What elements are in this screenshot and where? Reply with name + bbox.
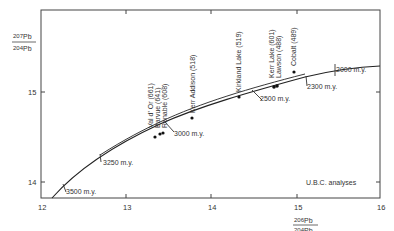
- point-val-dor: [153, 135, 156, 138]
- label-lawson: Lawson (488): [275, 36, 283, 78]
- age-ticks: [63, 64, 335, 192]
- age-label-2300: 2300 m.y.: [307, 83, 337, 91]
- y-tick-14: 14: [28, 178, 36, 187]
- x-axis-label: 206Pb 204Pb: [293, 217, 318, 231]
- label-renable: Renable (608): [161, 84, 169, 128]
- point-cobalt: [292, 70, 295, 73]
- x-tick-14: 14: [208, 203, 216, 212]
- lead-isotope-chart: 12 13 14 15 16 15 14 207Pb 204Pb 206Pb 2…: [0, 0, 394, 231]
- sample-points: [153, 70, 295, 138]
- x-tick-15: 15: [294, 203, 302, 212]
- x-tick-13: 13: [123, 203, 131, 212]
- label-kerr-addison: Kerr Addison (518): [189, 55, 197, 113]
- age-label-3500: 3500 m.y.: [66, 188, 96, 196]
- age-label-2000: 2000 m.y.: [336, 66, 366, 74]
- point-renable: [161, 131, 164, 134]
- label-kirkland-lake: Kirkland Lake (519): [235, 31, 243, 92]
- label-cobalt: Cobalt (489): [290, 27, 298, 66]
- age-label-3250: 3250 m.y.: [103, 159, 133, 167]
- svg-text:206Pb: 206Pb: [294, 217, 313, 224]
- svg-text:204Pb: 204Pb: [294, 227, 313, 231]
- point-kerr-addison: [190, 116, 193, 119]
- point-lawson: [275, 84, 279, 88]
- ubc-analyses-note: U.B.C. analyses: [306, 179, 357, 187]
- y-axis-ticks: [41, 92, 380, 182]
- point-kirkland-lake: [237, 95, 240, 98]
- svg-text:204Pb: 204Pb: [13, 45, 32, 52]
- point-barvue: [158, 132, 161, 135]
- svg-text:207Pb: 207Pb: [13, 33, 32, 40]
- y-tick-15: 15: [28, 88, 36, 97]
- age-label-3000: 3000 m.y.: [174, 130, 204, 138]
- y-axis-label: 207Pb 204Pb: [12, 33, 36, 52]
- plot-frame: [41, 10, 380, 198]
- x-tick-12: 12: [38, 203, 46, 212]
- age-label-2500: 2500 m.y.: [260, 95, 290, 103]
- x-tick-16: 16: [377, 203, 385, 212]
